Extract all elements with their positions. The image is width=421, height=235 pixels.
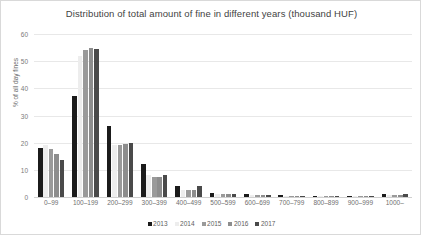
legend-swatch-icon: [255, 222, 259, 226]
bar[interactable]: [60, 160, 65, 197]
bar[interactable]: [284, 196, 289, 197]
bar[interactable]: [89, 48, 94, 197]
plot-area: [34, 34, 412, 197]
bar[interactable]: [129, 143, 134, 197]
bar[interactable]: [329, 196, 334, 197]
bar[interactable]: [78, 56, 83, 197]
bar[interactable]: [295, 196, 300, 197]
bar-group: [343, 34, 377, 197]
bar-group: [137, 34, 171, 197]
bar[interactable]: [49, 149, 54, 197]
bar[interactable]: [94, 49, 99, 197]
legend-swatch-icon: [228, 222, 232, 226]
y-axis-tick: 30: [6, 112, 28, 119]
legend-swatch-icon: [148, 222, 152, 226]
x-axis-tick: 800–899: [309, 199, 343, 206]
bar[interactable]: [335, 196, 340, 197]
bar[interactable]: [387, 195, 392, 197]
legend-label: 2015: [207, 220, 221, 227]
x-axis-tick-labels: 0–99100–199200–299300–399400–499500–5996…: [34, 199, 412, 206]
bar[interactable]: [398, 195, 403, 197]
bar[interactable]: [255, 195, 260, 197]
x-axis-tick: 1000–: [378, 199, 412, 206]
y-axis-tick: 20: [6, 139, 28, 146]
bar[interactable]: [43, 145, 48, 197]
bar-group: [34, 34, 68, 197]
legend-swatch-icon: [202, 222, 206, 226]
bar[interactable]: [347, 196, 352, 197]
bar[interactable]: [278, 195, 283, 197]
legend-item-2014[interactable]: 2014: [175, 220, 195, 227]
bar[interactable]: [112, 145, 117, 197]
bar[interactable]: [38, 148, 43, 197]
bar[interactable]: [54, 154, 59, 197]
legend-swatch-icon: [175, 222, 179, 226]
legend-item-2016[interactable]: 2016: [228, 220, 248, 227]
y-axis-tick: 0: [6, 194, 28, 201]
bar[interactable]: [192, 190, 197, 197]
bar[interactable]: [107, 126, 112, 197]
x-axis-tick: 500–599: [206, 199, 240, 206]
chart-container: Distribution of total amount of fine in …: [0, 0, 421, 235]
bar[interactable]: [392, 195, 397, 197]
bar[interactable]: [313, 196, 318, 197]
bar[interactable]: [369, 196, 374, 197]
x-axis-tick: 600–699: [240, 199, 274, 206]
bar[interactable]: [244, 194, 249, 197]
legend-label: 2013: [153, 220, 167, 227]
bar[interactable]: [300, 196, 305, 197]
y-axis-tick: 40: [6, 85, 28, 92]
y-axis-tick: 10: [6, 166, 28, 173]
bar-group: [309, 34, 343, 197]
bar[interactable]: [353, 196, 358, 197]
legend-label: 2016: [234, 220, 248, 227]
bar[interactable]: [181, 190, 186, 197]
bar[interactable]: [175, 186, 180, 197]
bar[interactable]: [83, 50, 88, 197]
chart-legend: 20132014201520162017: [1, 220, 421, 227]
x-axis-tick: 200–299: [103, 199, 137, 206]
bar[interactable]: [250, 195, 255, 197]
x-axis-tick: 900–999: [343, 199, 377, 206]
bar[interactable]: [146, 175, 151, 197]
bar[interactable]: [118, 145, 123, 197]
bar[interactable]: [232, 194, 237, 197]
bar[interactable]: [210, 193, 215, 197]
bar[interactable]: [215, 194, 220, 197]
bar[interactable]: [123, 144, 128, 197]
x-axis-tick: 100–199: [68, 199, 102, 206]
bar[interactable]: [324, 196, 329, 197]
bar[interactable]: [226, 194, 231, 197]
bar[interactable]: [358, 196, 363, 197]
bar[interactable]: [157, 177, 162, 197]
bar[interactable]: [382, 194, 387, 197]
bar[interactable]: [186, 190, 191, 197]
chart-title: Distribution of total amount of fine in …: [1, 8, 421, 19]
bar[interactable]: [364, 196, 369, 197]
legend-item-2017[interactable]: 2017: [255, 220, 275, 227]
bar-group: [171, 34, 205, 197]
bar[interactable]: [289, 196, 294, 197]
bar-group: [240, 34, 274, 197]
bar[interactable]: [72, 96, 77, 197]
y-axis-tick: 50: [6, 58, 28, 65]
bar-group: [378, 34, 412, 197]
bar[interactable]: [403, 194, 408, 197]
bar-group: [103, 34, 137, 197]
bar[interactable]: [261, 195, 266, 197]
x-axis-tick: 700–799: [275, 199, 309, 206]
bar[interactable]: [163, 175, 168, 197]
bar[interactable]: [221, 194, 226, 197]
bar[interactable]: [141, 164, 146, 197]
bar[interactable]: [197, 186, 202, 197]
bar[interactable]: [266, 195, 271, 197]
bar[interactable]: [152, 177, 157, 197]
legend-item-2015[interactable]: 2015: [202, 220, 222, 227]
x-axis-tick: 400–499: [171, 199, 205, 206]
legend-label: 2017: [261, 220, 275, 227]
bar[interactable]: [318, 196, 323, 197]
bar-group: [206, 34, 240, 197]
legend-item-2013[interactable]: 2013: [148, 220, 168, 227]
bar-group: [68, 34, 102, 197]
x-axis-tick: 300–399: [137, 199, 171, 206]
